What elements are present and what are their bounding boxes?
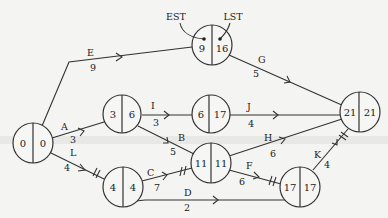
node-4-4: 4 4	[103, 167, 143, 207]
pointer-dot-icon	[202, 37, 206, 41]
edge-label-activity: J	[246, 101, 251, 112]
pointer-dot-icon	[218, 37, 222, 41]
edge-label-activity: K	[314, 149, 322, 160]
node-17-17: 17 17	[280, 167, 320, 207]
activity-network-diagram: E 9 A 3 L 4 G 5 I 3 B 5	[0, 0, 388, 218]
node-lst: 6	[129, 109, 135, 120]
node-est: 9	[199, 43, 205, 54]
lst-callout: LST	[218, 11, 243, 41]
edge-label-activity: L	[70, 147, 77, 158]
node-est: 21	[344, 107, 357, 118]
edge-label-activity: A	[60, 121, 68, 132]
edge-F: F 6	[229, 160, 281, 187]
node-3-6: 3 6	[103, 95, 141, 133]
edge-label-activity: I	[151, 100, 155, 111]
edge-label-duration: 6	[239, 176, 245, 187]
edge-label-duration: 3	[153, 117, 159, 128]
node-11-11: 11 11	[191, 143, 231, 183]
edge-label-duration: 4	[64, 162, 70, 173]
edge-L: L 4	[51, 147, 104, 179]
edge-label-activity: H	[264, 132, 272, 143]
node-lst: 21	[364, 107, 377, 118]
node-est: 4	[110, 182, 116, 193]
node-est: 11	[195, 158, 208, 169]
node-est: 17	[284, 182, 297, 193]
edge-label-activity: B	[178, 132, 185, 143]
edge-label-activity: C	[147, 167, 154, 178]
edge-H: H 6	[229, 119, 342, 159]
edge-label-duration: 2	[184, 202, 190, 213]
edge-label-activity: G	[258, 54, 266, 65]
edge-label-activity: F	[246, 160, 253, 171]
edge-G: G 5	[229, 54, 344, 106]
edge-K: K 4	[313, 129, 348, 170]
edge-label-duration: 9	[90, 62, 96, 73]
node-est: 0	[20, 138, 26, 149]
node-lst: 16	[216, 43, 229, 54]
edge-label-activity: D	[184, 187, 192, 198]
est-label: EST	[166, 11, 186, 22]
edge-label-duration: 4	[248, 118, 254, 129]
node-lst: 0	[40, 138, 46, 149]
edge-label-duration: 6	[270, 148, 276, 159]
edge-B: B 5	[138, 126, 194, 157]
node-start: 0 0	[13, 123, 53, 163]
node-lst: 17	[304, 182, 317, 193]
arrow-icon	[116, 53, 122, 61]
node-lst: 11	[215, 158, 228, 169]
node-lst: 17	[214, 109, 227, 120]
edge-label-duration: 7	[154, 182, 160, 193]
node-est: 3	[110, 109, 116, 120]
edge-A: A 3	[52, 121, 104, 145]
edge-label-activity: E	[87, 47, 94, 58]
edge-I: I 3	[142, 100, 192, 128]
node-6-17: 6 17	[192, 95, 230, 133]
lst-label: LST	[223, 11, 243, 22]
node-est: 6	[198, 109, 204, 120]
node-end: 21 21	[340, 92, 380, 132]
edge-label-duration: 5	[253, 68, 259, 79]
node-lst: 4	[130, 182, 136, 193]
edge-label-duration: 4	[324, 159, 330, 170]
edge-label-duration: 3	[70, 134, 76, 145]
edge-label-duration: 5	[170, 146, 176, 157]
